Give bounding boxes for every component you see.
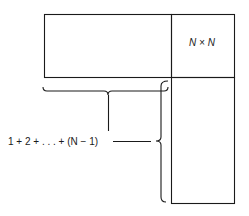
- sum-label: 1 + 2 + . . . + (N − 1): [8, 136, 98, 147]
- square-label: N × N: [189, 37, 216, 48]
- diagram-canvas: N × N 1 + 2 + . . . + (N − 1): [0, 0, 249, 216]
- vertical-brace: [156, 81, 168, 202]
- horizontal-block: [45, 15, 172, 78]
- vertical-block: [172, 78, 235, 204]
- horizontal-brace: [43, 87, 168, 95]
